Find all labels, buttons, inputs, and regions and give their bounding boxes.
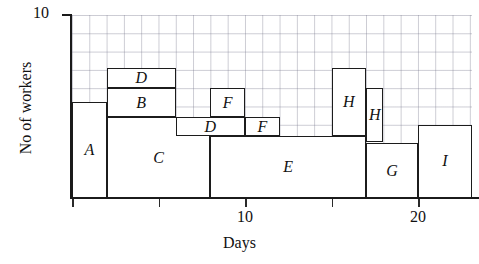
activity-block-f: F	[245, 117, 280, 135]
x-axis-tick-label-10: 10	[237, 208, 253, 226]
x-axis-tick-mark	[245, 199, 247, 207]
activity-block-h: H	[366, 88, 383, 142]
activity-block-label: H	[343, 94, 355, 110]
activity-block-label: C	[153, 150, 164, 166]
activity-block-label: D	[135, 70, 147, 86]
x-axis-tick-mark	[159, 199, 161, 207]
activity-block-label: E	[283, 159, 293, 175]
activity-block-i: I	[418, 125, 472, 198]
activity-block-b: B	[107, 88, 176, 117]
activity-block-label: I	[442, 153, 447, 169]
activity-block-f: F	[210, 88, 245, 117]
activity-block-e: E	[210, 136, 366, 198]
x-axis-title: Days	[0, 234, 479, 252]
activity-block-label: F	[257, 119, 267, 135]
activity-block-label: A	[84, 142, 94, 158]
activity-block-label: G	[386, 163, 398, 179]
activity-block-g: G	[366, 143, 418, 198]
y-axis-title: No of workers	[17, 28, 35, 188]
activity-block-a: A	[72, 102, 107, 198]
x-axis-tick-mark	[418, 199, 420, 207]
activity-block-label: D	[205, 119, 217, 135]
x-axis-tick-label-20: 20	[410, 208, 426, 226]
x-axis-tick-mark	[332, 199, 334, 207]
activity-block-label: F	[223, 95, 233, 111]
activity-block-d: D	[107, 68, 176, 88]
y-axis-tick-label-10: 10	[33, 4, 49, 22]
plot-area: ADBCDFFEHHGI	[72, 15, 472, 198]
chart-canvas: No of workers Days 10 ADBCDFFEHHGI 1020	[0, 0, 479, 264]
activity-block-label: H	[369, 107, 381, 123]
x-axis-tick-mark	[72, 199, 74, 207]
activity-block-label: B	[136, 95, 146, 111]
activity-block-h: H	[332, 68, 367, 136]
activity-block-d: D	[176, 117, 245, 135]
